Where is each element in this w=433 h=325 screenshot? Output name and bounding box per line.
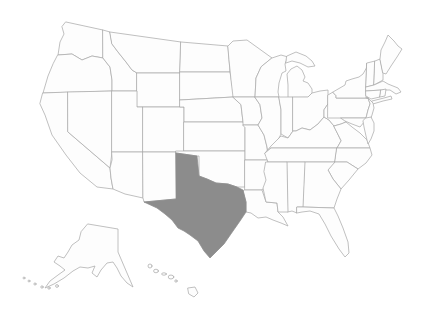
state-wyoming — [137, 73, 180, 107]
state-arizona — [110, 152, 143, 198]
alaska-aleutian-island — [34, 283, 36, 285]
alaska-aleutian-island — [28, 280, 30, 282]
alaska-inset — [23, 224, 133, 289]
state-vermont — [366, 61, 375, 87]
state-alabama — [287, 162, 305, 213]
us-map — [0, 0, 433, 325]
alaska-aleutian-island — [48, 287, 50, 289]
state-kansas — [184, 122, 245, 151]
state-colorado — [143, 107, 184, 152]
alaska-aleutian-island — [56, 285, 59, 288]
alaska-aleutian-island — [41, 286, 43, 288]
state-michigan-upper-peninsula — [286, 52, 315, 67]
us-states-map-canvas — [0, 0, 433, 325]
state-indiana — [279, 97, 293, 138]
state-alaska — [45, 224, 133, 288]
state-tennessee — [265, 148, 337, 162]
state-oregon — [43, 54, 112, 93]
hawaii-island-kahoolawe — [175, 280, 177, 282]
hawaii-island-big-island — [188, 287, 198, 297]
state-new-york — [333, 63, 368, 98]
hawaii-island-maui — [168, 275, 174, 279]
state-michigan — [287, 66, 312, 97]
state-rhode-island — [380, 89, 386, 97]
contiguous-states — [40, 22, 402, 258]
state-north-dakota — [180, 42, 230, 72]
state-south-dakota — [180, 72, 236, 100]
state-maine — [380, 35, 402, 74]
state-florida — [297, 207, 349, 257]
hawaii-island-oahu — [154, 269, 159, 273]
hawaii-inset — [148, 264, 198, 297]
state-new-mexico — [143, 152, 176, 202]
hawaii-island-molokai — [162, 273, 167, 275]
state-nebraska — [180, 97, 243, 122]
hawaii-island-kauai — [148, 264, 152, 268]
alaska-aleutian-island — [23, 277, 25, 279]
state-connecticut — [366, 90, 381, 99]
